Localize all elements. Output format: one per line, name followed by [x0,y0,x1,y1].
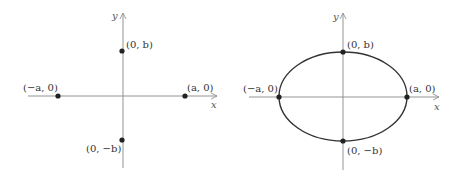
right-label-0-b: (0, b) [347,39,374,50]
right-x-axis-label: x [434,101,440,112]
left-point-0-neg-b [119,137,124,142]
left-panel: x y (0, b) (−a, 0) (a, 0) (0, −b) [23,10,217,168]
right-label-0-neg-b: (0, −b) [347,145,382,156]
left-x-axis-label: x [211,99,217,110]
left-label-a-0: (a, 0) [187,82,214,93]
left-point-a-0 [182,93,187,98]
right-point-a-0 [404,94,409,99]
right-y-axis-label: y [332,11,339,22]
right-point-neg-a-0 [276,94,281,99]
left-point-neg-a-0 [55,93,60,98]
left-label-neg-a-0: (−a, 0) [23,82,58,93]
right-point-0-b [340,49,345,54]
right-point-0-neg-b [340,138,345,143]
left-label-0-b: (0, b) [126,39,153,50]
right-label-neg-a-0: (−a, 0) [243,83,278,94]
right-panel: x y (0, b) (−a, 0) (a, 0) (0, −b) [243,11,440,170]
left-y-axis-label: y [111,10,118,21]
ellipse-diagram: x y (0, b) (−a, 0) (a, 0) (0, −b) x y (0… [0,0,459,181]
left-label-0-neg-b: (0, −b) [86,143,121,154]
left-point-0-b [119,48,124,53]
right-label-a-0: (a, 0) [409,83,436,94]
